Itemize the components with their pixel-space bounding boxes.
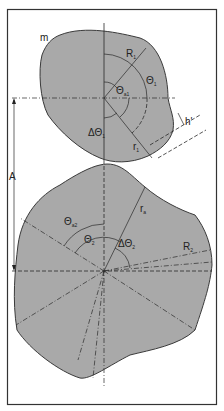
cam-profile-diagram: A m R1 Θ1 Θa1 ΔΘ1 r1 h' ra Θa2 Θ2 ΔΘ2 R2	[0, 0, 224, 411]
arrow-up-icon	[12, 98, 16, 104]
label-A: A	[9, 171, 16, 182]
upper-cam	[40, 30, 173, 162]
label-m: m	[40, 32, 48, 43]
label-h-prime: h'	[185, 116, 193, 127]
h-prime-dim	[178, 113, 184, 125]
